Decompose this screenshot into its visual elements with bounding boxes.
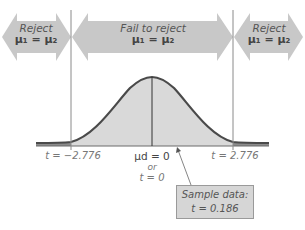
sample-data-box: Sample data: t = 0.186 bbox=[176, 185, 254, 219]
hypothesis-test-diagram: Reject μ₁ = μ₂ Fail to reject μ₁ = μ₂ Re… bbox=[0, 0, 305, 230]
center-t-label: t = 0 bbox=[122, 172, 182, 184]
left-reject-hypothesis: μ₁ = μ₂ bbox=[4, 34, 68, 47]
sample-data-value: t = 0.186 bbox=[177, 202, 253, 216]
fail-to-reject-label: Fail to reject μ₁ = μ₂ bbox=[88, 22, 218, 47]
center-or-label: or bbox=[122, 162, 182, 172]
left-reject-label: Reject μ₁ = μ₂ bbox=[4, 22, 68, 47]
fail-to-reject-hypothesis: μ₁ = μ₂ bbox=[88, 34, 218, 47]
center-mu-label: μd = 0 bbox=[122, 150, 182, 162]
right-reject-label: Reject μ₁ = μ₂ bbox=[237, 22, 301, 47]
right-reject-hypothesis: μ₁ = μ₂ bbox=[237, 34, 301, 47]
sample-data-title: Sample data: bbox=[177, 188, 253, 202]
right-critical-value: t = 2.776 bbox=[205, 150, 265, 162]
left-critical-value: t = −2.776 bbox=[38, 150, 108, 162]
center-labels: μd = 0 or t = 0 bbox=[122, 150, 182, 184]
